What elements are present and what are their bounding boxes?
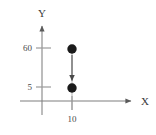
x-tick-label-10: 10: [68, 114, 78, 124]
y-axis-label: Y: [38, 7, 46, 19]
point-upper: [67, 44, 76, 53]
figure-container: Y X 60 5 10: [0, 0, 156, 135]
x-axis-label: X: [141, 95, 149, 107]
y-tick-label-5: 5: [28, 82, 33, 92]
y-tick-label-60: 60: [23, 43, 33, 53]
coordinate-diagram: Y X 60 5 10: [0, 0, 156, 135]
point-lower: [67, 83, 76, 92]
